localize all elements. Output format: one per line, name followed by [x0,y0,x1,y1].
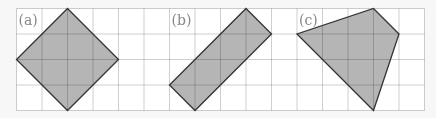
grid-figure: (a) (b) (c) [0,0,436,118]
panel-label-a: (a) [19,12,38,28]
panel-label-b: (b) [172,12,192,28]
panel-label-c: (c) [299,12,318,28]
